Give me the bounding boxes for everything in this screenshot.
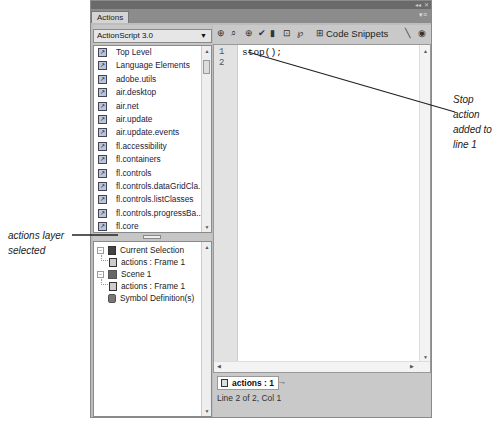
annotation-stop-action: Stop action added to line 1 [453,92,501,152]
add-statement-icon[interactable]: ⊕ [217,28,225,39]
scroll-up-icon[interactable]: ▲ [202,48,212,54]
toolbox-item-label: Language Elements [116,60,190,70]
toolbox-item-label: air.desktop [116,87,156,97]
show-code-hint-icon[interactable]: ⊡ [283,28,291,39]
collapse-icon[interactable]: ◂◂ [415,1,421,9]
pane-splitter[interactable] [93,233,212,241]
toolbox-item-label: fl.accessibility [116,141,167,151]
book-icon: ↗ [98,222,107,231]
toolbox-item[interactable]: ↗Top Level [94,46,211,59]
code-line-1[interactable]: stop(); [242,47,282,58]
actions-toolbar: ⊕ ⌕ ⊕ ✔ ▮ ⊡ ℘ ⊞ Code Snippets ╲ ◉ [213,25,431,43]
toolbox-scrollbar[interactable]: ▲ ▼ [201,46,211,232]
actions-toolbox: ↗Top Level ↗Language Elements ↗adobe.uti… [93,45,212,233]
pin-script-icon[interactable]: ⊸ [279,379,285,387]
panel-titlebar[interactable]: ◂◂ ✕ [91,1,431,9]
navigator-scrollbar[interactable]: ▲ ▼ [201,242,211,416]
navigator-item-label: actions : Frame 1 [121,257,185,267]
navigator-item-label: Current Selection [120,245,184,255]
toolbox-item[interactable]: ↗air.desktop [94,86,211,99]
book-icon: ↗ [98,75,107,84]
toolbox-item-label: adobe.utils [116,74,156,84]
editor-horizontal-scrollbar[interactable]: ◀ ▶ [214,361,430,372]
toolbox-item[interactable]: ↗fl.containers [94,153,211,166]
symbol-definitions-icon [108,294,116,303]
annotation-line: Stop action [453,92,501,122]
toolbox-item-label: fl.controls.dataGridCla... [116,181,205,191]
toolbox-item-label: fl.controls [116,168,152,178]
annotation-line: actions layer [8,228,64,243]
insert-target-path-icon[interactable]: ⊕ [245,28,253,39]
book-icon: ↗ [98,182,107,191]
check-syntax-icon[interactable]: ✔ [258,28,266,39]
debug-options-icon[interactable]: ℘ [297,28,303,39]
current-selection-icon [108,246,116,255]
toolbox-item[interactable]: ↗Language Elements [94,59,211,72]
toolbox-item-label: fl.containers [116,154,161,164]
panel-menu-icon[interactable]: ▾≡ [419,11,427,19]
toolbox-item[interactable]: ↗fl.controls.listClasses [94,193,211,206]
tree-connector [101,255,108,261]
language-select[interactable]: ActionScript 3.0 ▼ [93,29,212,43]
scroll-down-icon[interactable]: ▼ [202,224,212,230]
scroll-left-icon[interactable]: ◀ [217,363,221,369]
script-tab-label: actions : 1 [232,378,274,388]
status-bar: Line 2 of 2, Col 1 [217,393,281,403]
toolbox-item[interactable]: ↗air.update [94,113,211,126]
scroll-down-icon[interactable]: ▼ [202,408,212,414]
navigator-item-label: Symbol Definition(s) [120,293,194,303]
toolbox-item[interactable]: ↗fl.controls.dataGridCla... [94,180,211,193]
toolbox-item-label: air.update.events [116,127,179,137]
tree-connector [101,279,108,285]
toolbox-item[interactable]: ↗adobe.utils [94,73,211,86]
toolbox-item-label: fl.core [116,221,139,231]
frame-script-icon [109,282,117,291]
navigator-item[interactable]: Symbol Definition(s) [108,292,194,304]
navigator-item[interactable]: actions : Frame 1 [109,280,185,292]
line-number-gutter: 1 2 [214,45,238,372]
toolbox-item[interactable]: ↗fl.core [94,220,211,233]
script-assist-icon[interactable]: ╲ [405,28,410,39]
splitter-grip[interactable] [143,235,161,239]
collapse-icon[interactable]: − [97,247,104,254]
book-icon: ↗ [98,142,107,151]
auto-format-icon[interactable]: ▮ [270,28,275,39]
book-icon: ↗ [98,155,107,164]
find-icon[interactable]: ⌕ [231,28,236,39]
scroll-up-icon[interactable]: ▲ [202,244,212,250]
scene-icon [108,270,117,279]
book-icon: ↗ [98,209,107,218]
scroll-thumb[interactable] [203,60,210,74]
close-icon[interactable]: ✕ [424,1,429,9]
toolbox-item[interactable]: ↗fl.controls [94,167,211,180]
book-icon: ↗ [98,61,107,70]
toolbox-item-label: air.update [116,114,152,124]
language-select-value: ActionScript 3.0 [97,31,153,40]
code-snippets-button[interactable]: Code Snippets [326,28,388,39]
chevron-down-icon: ▼ [200,30,207,42]
scroll-right-icon[interactable]: ▶ [410,363,414,369]
navigator-item-selected[interactable]: actions : Frame 1 [109,256,185,268]
code-snippets-icon[interactable]: ⊞ [316,28,324,39]
collapse-icon[interactable]: − [97,271,104,278]
toolbox-item[interactable]: ↗fl.controls.progressBa... [94,207,211,220]
editor-vertical-scrollbar[interactable]: ▲ ▼ [419,45,430,363]
line-number: 1 [219,47,224,57]
toolbox-item[interactable]: ↗air.net [94,100,211,113]
toolbox-item[interactable]: ↗fl.accessibility [94,140,211,153]
panel-tabbar: Actions ▾≡ [91,9,431,23]
navigator-item[interactable]: −Current Selection [97,244,184,256]
book-icon: ↗ [98,48,107,57]
script-editor[interactable]: 1 2 stop(); ▲ ▼ ◀ ▶ [213,44,431,373]
help-icon[interactable]: ◉ [418,28,426,39]
tab-actions[interactable]: Actions [91,11,129,23]
toolbox-item[interactable]: ↗air.update.events [94,126,211,139]
scroll-up-icon[interactable]: ▲ [420,48,431,54]
toolbox-item-label: fl.controls.progressBa... [116,208,203,218]
book-icon: ↗ [98,128,107,137]
left-pane: ActionScript 3.0 ▼ ↗Top Level ↗Language … [93,25,212,417]
annotation-line: added to [453,122,501,137]
script-tab-actions[interactable]: actions : 1 [217,376,279,390]
frame-script-icon [221,379,228,387]
scroll-down-icon[interactable]: ▼ [420,354,431,360]
